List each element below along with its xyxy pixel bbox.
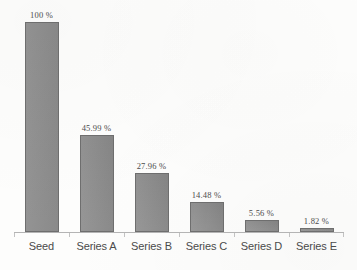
category-label-seed: Seed <box>14 240 69 252</box>
bar-value-label: 27.96 % <box>137 161 167 171</box>
bar-chart: 100 %45.99 %27.96 %14.48 %5.56 %1.82 % S… <box>0 0 357 270</box>
bar-group: 1.82 % <box>289 10 344 232</box>
bar-value-label: 14.48 % <box>192 190 222 200</box>
bar-value-label: 5.56 % <box>249 208 274 218</box>
axis-tick <box>124 233 125 237</box>
category-label-series-c: Series C <box>179 240 234 252</box>
axis-tick <box>289 233 290 237</box>
axis-tick <box>343 233 344 237</box>
category-label-series-b: Series B <box>124 240 179 252</box>
bar <box>25 22 59 232</box>
plot-area: 100 %45.99 %27.96 %14.48 %5.56 %1.82 % <box>14 10 344 232</box>
bar-group: 27.96 % <box>124 10 179 232</box>
bar-value-label: 1.82 % <box>304 216 329 226</box>
bar-group: 100 % <box>14 10 69 232</box>
axis-tick <box>179 233 180 237</box>
bar <box>245 220 279 232</box>
bar-value-label: 100 % <box>30 10 53 20</box>
category-label-series-e: Series E <box>289 240 344 252</box>
bar-group: 14.48 % <box>179 10 234 232</box>
category-label-series-a: Series A <box>69 240 124 252</box>
x-axis-tick-row <box>14 233 344 238</box>
axis-tick <box>69 233 70 237</box>
category-label-series-d: Series D <box>234 240 289 252</box>
bar <box>190 202 224 232</box>
bar-group: 5.56 % <box>234 10 289 232</box>
bar <box>135 173 169 232</box>
axis-tick <box>234 233 235 237</box>
x-axis-category-labels: SeedSeries ASeries BSeries CSeries DSeri… <box>14 240 344 262</box>
axis-tick <box>14 233 15 237</box>
bar-group: 45.99 % <box>69 10 124 232</box>
bar <box>80 135 114 232</box>
bar-value-label: 45.99 % <box>82 123 112 133</box>
